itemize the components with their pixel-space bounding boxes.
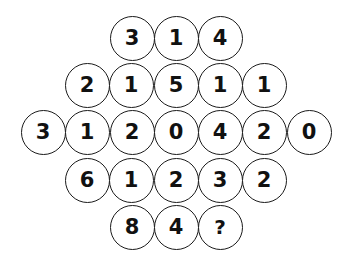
puzzle-cell-label: 2 (257, 170, 272, 191)
puzzle-cell: 2 (110, 110, 155, 155)
puzzle-cell: 3 (21, 110, 66, 155)
puzzle-cell: 3 (198, 158, 243, 203)
puzzle-cell: 3 (110, 16, 155, 61)
puzzle-cell-label: 2 (125, 122, 140, 143)
puzzle-cell: 1 (109, 63, 154, 108)
puzzle-cell: 2 (242, 158, 287, 203)
puzzle-cell-label: 0 (302, 122, 317, 143)
puzzle-cell-label: 4 (169, 217, 184, 238)
puzzle-cell: 4 (198, 16, 243, 61)
puzzle-cell: 2 (65, 63, 110, 108)
puzzle-cell-label: 3 (125, 28, 140, 49)
puzzle-cell: 4 (154, 205, 199, 250)
puzzle-cell-label: 1 (124, 170, 139, 191)
puzzle-cell-label: 1 (257, 75, 272, 96)
puzzle-cell-label: 2 (80, 75, 95, 96)
puzzle-cell: 2 (154, 158, 199, 203)
puzzle-cell-label: 3 (36, 122, 51, 143)
puzzle-cell-label: 3 (213, 170, 228, 191)
puzzle-cell: 1 (65, 110, 110, 155)
puzzle-cell: 5 (154, 63, 199, 108)
puzzle-cell: 1 (242, 63, 287, 108)
puzzle-cell: 0 (154, 110, 199, 155)
puzzle-cell-label: 5 (169, 75, 184, 96)
puzzle-cell-label: 1 (124, 75, 139, 96)
puzzle-cell: 1 (198, 63, 243, 108)
puzzle-cell: 1 (109, 158, 154, 203)
puzzle-cell-label: 1 (80, 122, 95, 143)
puzzle-cell-label: 2 (257, 122, 272, 143)
puzzle-cell-unknown: ? (198, 205, 243, 250)
puzzle-cell: 8 (110, 205, 155, 250)
puzzle-cell-label: 8 (125, 217, 140, 238)
puzzle-cell-label: 1 (213, 75, 228, 96)
puzzle-cell: 0 (287, 110, 332, 155)
puzzle-cell: 2 (242, 110, 287, 155)
number-puzzle-diagram: 3142151131204206123284? (0, 0, 348, 261)
puzzle-cell: 6 (65, 158, 110, 203)
puzzle-cell: 1 (154, 16, 199, 61)
puzzle-cell-label: 2 (169, 170, 184, 191)
puzzle-cell-label: 6 (80, 170, 95, 191)
puzzle-cell: 4 (198, 110, 243, 155)
puzzle-cell-label: 1 (169, 28, 184, 49)
puzzle-cell-label: 4 (213, 28, 228, 49)
puzzle-cell-label: 4 (213, 122, 228, 143)
puzzle-cell-label: 0 (169, 122, 184, 143)
puzzle-cell-unknown-label: ? (214, 217, 226, 237)
